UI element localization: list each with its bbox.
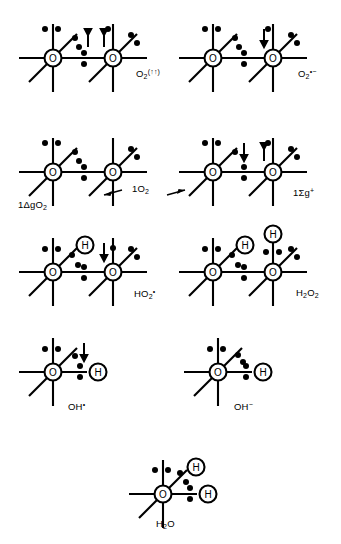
figure-canvas: OOOOOOOOOOHOOHHOHOHOHH O2(↑↑) O2•− 1ΔgO2… [0, 0, 341, 544]
hydrogen-glyph: H [241, 240, 248, 251]
structure-hydroxide [184, 338, 272, 406]
label-mid: O [167, 518, 175, 529]
oxygen-glyph: O [209, 167, 217, 178]
spin-arrow-down [101, 243, 107, 261]
oxygen-glyph: O [269, 167, 277, 178]
label-superscript: + [310, 187, 314, 194]
label-base: OH [234, 401, 249, 412]
label-base: 1ΔgO [18, 199, 43, 210]
oxygen-glyph: O [49, 367, 57, 378]
label-base: 1Σg [293, 187, 310, 198]
label-base: OH [68, 401, 83, 412]
label-base: H [156, 518, 163, 529]
spin-arrow-down [261, 29, 267, 47]
oxygen-glyph: O [269, 267, 277, 278]
label-base: O [298, 68, 306, 79]
label-singlet-sigma-g-plus: 1Σg+ [293, 187, 314, 198]
oxygen-glyph: O [209, 53, 217, 64]
label-base: 1O [132, 183, 145, 194]
label-superoxide: O2•− [298, 68, 317, 80]
label-superscript: •− [310, 68, 317, 75]
oxygen-glyph: O [49, 167, 57, 178]
spin-arrow-down [81, 343, 87, 361]
label-subscript: 2 [145, 188, 149, 195]
spin-arrow-up [101, 29, 107, 47]
label-subscript-2: 2 [315, 292, 319, 299]
oxygen-glyph: O [109, 53, 117, 64]
label-triplet-oxygen: O2(↑↑) [136, 68, 160, 80]
hydrogen-glyph: H [81, 240, 88, 251]
label-superscript: (↑↑) [148, 68, 160, 75]
label-water: H2O [156, 519, 175, 530]
label-hydroperoxyl: HO2• [134, 288, 155, 300]
structure-superoxide [179, 24, 307, 92]
spin-arrow-up [85, 29, 91, 47]
electron-dots [42, 26, 300, 502]
label-hydroxide: OH− [234, 401, 253, 412]
hydrogen-glyph: H [204, 489, 211, 500]
orbital-diagram-svg: OOOOOOOOOOHOOHHOHOHOHH [0, 0, 341, 544]
callout-arrow-right [167, 189, 185, 195]
label-singlet-delta-g: 1ΔgO2 [18, 200, 47, 211]
label-hydrogen-peroxide: H2O2 [296, 288, 319, 299]
label-singlet-oxygen-callout: 1O2 [132, 184, 149, 195]
structure-hydroxyl-radical [19, 338, 107, 406]
oxygen-glyph: O [49, 53, 57, 64]
label-subscript: 2 [43, 204, 47, 211]
label-base: O [136, 68, 144, 79]
oxygen-glyph: O [209, 267, 217, 278]
label-superscript: − [249, 401, 253, 408]
hydrogen-glyph: H [94, 367, 101, 378]
spin-arrow-down [241, 143, 247, 161]
oxygen-glyph: O [269, 53, 277, 64]
oxygen-glyph: O [159, 489, 167, 500]
hydrogen-glyph: H [192, 462, 199, 473]
oxygen-glyph: O [214, 367, 222, 378]
label-superscript: • [83, 401, 86, 408]
oxygen-glyph: O [49, 267, 57, 278]
hydrogen-glyph: H [259, 367, 266, 378]
structure-triplet-oxygen [19, 24, 147, 92]
oxygen-glyph: O [109, 267, 117, 278]
spin-arrow-up [261, 143, 267, 161]
label-base: H [296, 287, 303, 298]
structure-singlet-delta-g [19, 138, 147, 206]
label-mid: O [307, 287, 315, 298]
oxygen-glyph: O [109, 167, 117, 178]
hydrogen-glyph: H [269, 229, 276, 240]
label-base: HO [134, 288, 149, 299]
label-superscript: • [153, 288, 156, 295]
label-hydroxyl-radical: OH• [68, 401, 85, 412]
